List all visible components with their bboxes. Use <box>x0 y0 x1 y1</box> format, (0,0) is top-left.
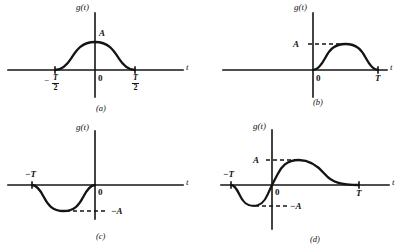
panel-b-xlabel: t <box>390 63 393 72</box>
panel-a-tick-right-denominator: 2 <box>133 84 137 93</box>
panel-a-tick-right-label: T 2 <box>132 74 139 92</box>
panel-d-curve <box>231 160 359 206</box>
panel-c-curve <box>32 185 95 211</box>
panel-b-amplitude-label: A <box>293 40 299 49</box>
panel-c-xlabel: t <box>186 178 189 187</box>
panel-d-ylabel: g(t) <box>253 122 266 131</box>
panel-a-amplitude-label: A <box>99 29 105 38</box>
panel-a-sublabel: (a) <box>96 104 106 113</box>
panel-c-origin-label: 0 <box>98 188 103 197</box>
panel-a: g(t) t A 0 − T 2 T 2 (a) <box>0 0 209 126</box>
panel-d-amplitude-pos-label: A <box>253 156 259 165</box>
panel-c-ylabel: g(t) <box>76 123 89 132</box>
panel-b-ylabel: g(t) <box>294 3 307 12</box>
panel-a-ylabel: g(t) <box>76 3 89 12</box>
panel-d-xlabel: t <box>392 178 395 187</box>
panel-c-amplitude-label: −A <box>111 207 122 216</box>
panel-b-origin-label: 0 <box>316 74 321 83</box>
panel-b-curve <box>313 44 378 70</box>
panel-d-sublabel: (d) <box>310 235 320 244</box>
panel-a-xlabel: t <box>186 63 189 72</box>
panel-c-sublabel: (c) <box>96 232 105 241</box>
figure-canvas: g(t) t A 0 − T 2 T 2 (a) g(t) t A 0 T ( <box>0 0 417 252</box>
panel-d-tick-right-label: T <box>356 189 362 198</box>
panel-b-sublabel: (b) <box>313 98 323 107</box>
panel-b-plot <box>209 0 417 126</box>
panel-c-tick-left-label: −T <box>25 170 36 179</box>
panel-c: g(t) t −T 0 −A (c) <box>0 126 209 252</box>
panel-a-tick-left-sign: − <box>44 76 49 85</box>
panel-a-tick-left-denominator: 2 <box>53 84 57 93</box>
panel-b-tick-right-label: T <box>375 74 381 83</box>
panel-a-tick-left-label: T 2 <box>52 74 59 92</box>
panel-d-origin-label: 0 <box>275 188 280 197</box>
panel-a-origin-label: 0 <box>98 74 103 83</box>
panel-b: g(t) t A 0 T (b) <box>209 0 417 126</box>
panel-d-amplitude-neg-label: −A <box>290 202 301 211</box>
panel-d-tick-left-label: −T <box>223 170 234 179</box>
panel-d: g(t) t −T T 0 A −A (d) <box>209 126 417 252</box>
